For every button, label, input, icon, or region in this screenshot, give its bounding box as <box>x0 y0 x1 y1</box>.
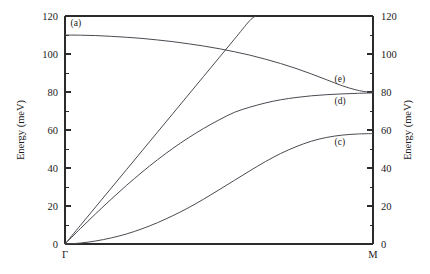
y-tick-label-left: 0 <box>53 239 58 250</box>
y-tick-label-left: 100 <box>42 49 58 60</box>
branch-label: (e) <box>335 74 346 85</box>
y-tick-label-left: 40 <box>48 163 59 174</box>
y-tick-label-left: 20 <box>48 201 59 212</box>
y-tick-label-right: 20 <box>381 201 392 212</box>
phonon-dispersion-figure: 020406080100120 020406080100120 ΓM (a)(e… <box>0 0 430 274</box>
x-tick-label: Γ <box>62 249 68 260</box>
branch-label: (c) <box>335 137 346 148</box>
x-tick-label: M <box>368 249 378 260</box>
y-tick-label-right: 0 <box>381 239 386 250</box>
y-tick-label-right: 60 <box>381 125 392 136</box>
branch-label: (a) <box>71 18 82 29</box>
y-tick-label-right: 100 <box>381 49 397 60</box>
y-tick-label-left: 120 <box>42 11 58 22</box>
y-tick-label-right: 80 <box>381 87 392 98</box>
y-axis-right-title: Energy (meV) <box>402 99 414 160</box>
y-tick-label-right: 120 <box>381 11 397 22</box>
branch-label: (d) <box>335 96 346 107</box>
y-tick-label-left: 60 <box>48 125 59 136</box>
y-tick-label-right: 40 <box>381 163 392 174</box>
phonon-dispersion-chart: 020406080100120 020406080100120 ΓM (a)(e… <box>0 0 430 274</box>
y-tick-label-left: 80 <box>48 87 59 98</box>
y-axis-left-title: Energy (meV) <box>15 99 27 160</box>
